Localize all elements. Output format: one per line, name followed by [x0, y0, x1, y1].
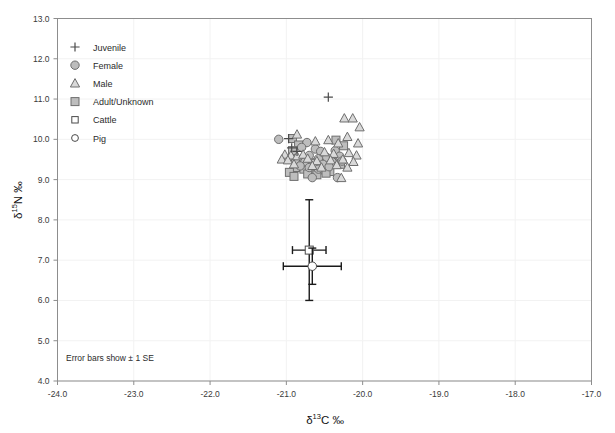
y-tick-label: 9.0 — [38, 175, 50, 185]
y-title-main: N ‰ — [12, 181, 24, 205]
y-tick-label: 10.0 — [33, 134, 50, 144]
marker-filled-square — [71, 98, 79, 106]
x-tick-label: -24.0 — [48, 389, 68, 399]
marker-open-circle — [308, 262, 317, 271]
y-tick-label: 11.0 — [34, 94, 50, 104]
x-tick-label: -21.0 — [277, 389, 297, 399]
marker-filled-circle — [308, 173, 316, 181]
legend-label: Cattle — [93, 115, 117, 125]
y-tick-label: 13.0 — [33, 14, 50, 24]
x-title-main: C ‰ — [321, 414, 345, 426]
legend-label: Male — [93, 79, 113, 89]
marker-filled-square — [290, 172, 298, 180]
x-tick-label: -20.0 — [353, 389, 373, 399]
x-tick-label: -18.0 — [506, 389, 526, 399]
y-title-superscript: 15 — [10, 204, 19, 212]
x-tick-label: -19.0 — [429, 389, 449, 399]
marker-filled-circle — [275, 135, 283, 143]
y-tick-label: 7.0 — [38, 255, 50, 265]
legend-label: Pig — [93, 134, 106, 144]
x-tick-label: -17.0 — [582, 389, 602, 399]
y-tick-label: 4.0 — [38, 376, 50, 386]
x-title-superscript: 13 — [313, 412, 321, 421]
y-axis-title: δ15N ‰ — [10, 181, 24, 219]
scatter-chart: -24.0-23.0-22.0-21.0-20.0-19.0-18.0-17.0… — [0, 0, 615, 433]
x-tick-label: -23.0 — [124, 389, 144, 399]
x-axis-title: δ13C ‰ — [306, 412, 344, 426]
y-tick-label: 5.0 — [38, 336, 50, 346]
y-tick-label: 12.0 — [33, 54, 50, 64]
marker-filled-circle — [71, 61, 79, 69]
x-tick-label: -22.0 — [200, 389, 220, 399]
legend-label: Female — [93, 61, 123, 71]
marker-filled-circle — [297, 143, 305, 151]
svg-text:δ15N ‰: δ15N ‰ — [10, 181, 24, 219]
legend-label: Adult/Unknown — [93, 97, 154, 107]
svg-text:δ13C ‰: δ13C ‰ — [306, 412, 344, 426]
legend-label: Juvenile — [93, 43, 126, 53]
marker-open-circle — [72, 135, 79, 142]
y-tick-label: 6.0 — [38, 295, 50, 305]
marker-open-square — [72, 117, 78, 123]
y-tick-label: 8.0 — [38, 215, 50, 225]
error-bar-note: Error bars show ± 1 SE — [66, 353, 154, 363]
chart-canvas: -24.0-23.0-22.0-21.0-20.0-19.0-18.0-17.0… — [0, 0, 615, 433]
